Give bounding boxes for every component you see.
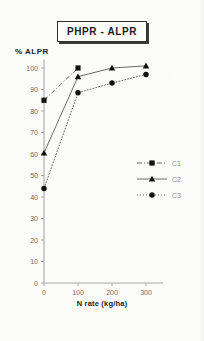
plot-area: 0102030405060708090100 0100200300 C1C2C3 bbox=[0, 0, 204, 341]
y-tick-label: 60 bbox=[30, 151, 38, 158]
data-point-c1 bbox=[75, 65, 80, 70]
data-point-c3 bbox=[143, 72, 148, 77]
legend-marker-c1 bbox=[149, 160, 154, 165]
y-tick-label: 70 bbox=[30, 129, 38, 136]
x-tick-label: 0 bbox=[42, 289, 46, 296]
legend-marker-c3 bbox=[149, 192, 154, 197]
data-point-c3 bbox=[75, 90, 80, 95]
x-axis: 0100200300 bbox=[42, 283, 163, 296]
legend-label-c1: C1 bbox=[172, 160, 181, 167]
x-tick-label: 300 bbox=[140, 289, 152, 296]
x-tick-label: 200 bbox=[106, 289, 118, 296]
chart-legend: C1C2C3 bbox=[137, 160, 181, 199]
data-point-c3 bbox=[41, 186, 46, 191]
y-tick-label: 10 bbox=[30, 258, 38, 265]
chart-figure: PHPR - ALPR % ALPR N rate (kg/ha) 010203… bbox=[0, 0, 204, 341]
x-tick-label: 100 bbox=[72, 289, 84, 296]
y-tick-label: 90 bbox=[30, 86, 38, 93]
series-line-c2 bbox=[44, 66, 146, 153]
data-series-group bbox=[41, 63, 150, 192]
y-tick-label: 20 bbox=[30, 237, 38, 244]
series-line-c1 bbox=[44, 68, 78, 100]
y-tick-label: 50 bbox=[30, 172, 38, 179]
series-line-c3 bbox=[44, 74, 146, 188]
y-tick-label: 40 bbox=[30, 194, 38, 201]
y-tick-label: 0 bbox=[34, 280, 38, 287]
legend-label-c3: C3 bbox=[172, 192, 181, 199]
data-point-c2 bbox=[143, 63, 150, 69]
legend-label-c2: C2 bbox=[172, 176, 181, 183]
y-axis: 0102030405060708090100 bbox=[26, 59, 44, 286]
y-tick-label: 80 bbox=[30, 108, 38, 115]
data-point-c2 bbox=[41, 150, 48, 156]
y-tick-label: 30 bbox=[30, 215, 38, 222]
y-tick-label: 100 bbox=[26, 65, 38, 72]
data-point-c3 bbox=[109, 80, 114, 85]
data-point-c1 bbox=[41, 98, 46, 103]
